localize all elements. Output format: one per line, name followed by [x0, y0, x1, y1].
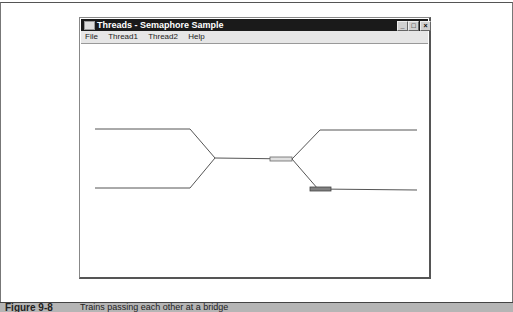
left-lower-track: [95, 158, 215, 188]
right-lower-track: [292, 159, 417, 190]
figure-label: Figure 9-8: [5, 302, 53, 312]
figure-caption: Figure 9-8 Trains passing each other at …: [0, 302, 513, 312]
figure-text: Trains passing each other at a bridge: [80, 302, 228, 312]
right-upper-track: [292, 130, 417, 159]
left-upper-track: [95, 129, 215, 158]
train-2: [310, 187, 331, 191]
train-1: [270, 157, 292, 161]
